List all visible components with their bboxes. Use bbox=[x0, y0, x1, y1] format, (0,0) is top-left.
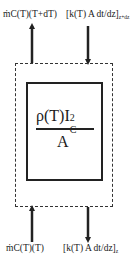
bottom-conduction-label: [k(T) A dt/dz]z bbox=[63, 244, 118, 255]
subscript-c: C bbox=[70, 125, 77, 135]
bottom-advection-text: ṁC(T)(T) bbox=[6, 243, 44, 253]
source-numerator: ρ(T)I2C bbox=[36, 108, 78, 124]
bottom-conduction-text: [k(T) A dt/dz] bbox=[63, 243, 116, 253]
bottom-conduction-subscript: z bbox=[116, 248, 118, 254]
heat-source-box: ρ(T)I2C A bbox=[26, 82, 103, 181]
source-denominator: A bbox=[57, 134, 69, 150]
bottom-advection-label: ṁC(T)(T) bbox=[6, 244, 44, 254]
numerator-base: ρ(T)I bbox=[36, 107, 70, 124]
fraction-line bbox=[36, 128, 94, 130]
superscript-2: 2 bbox=[70, 113, 75, 123]
